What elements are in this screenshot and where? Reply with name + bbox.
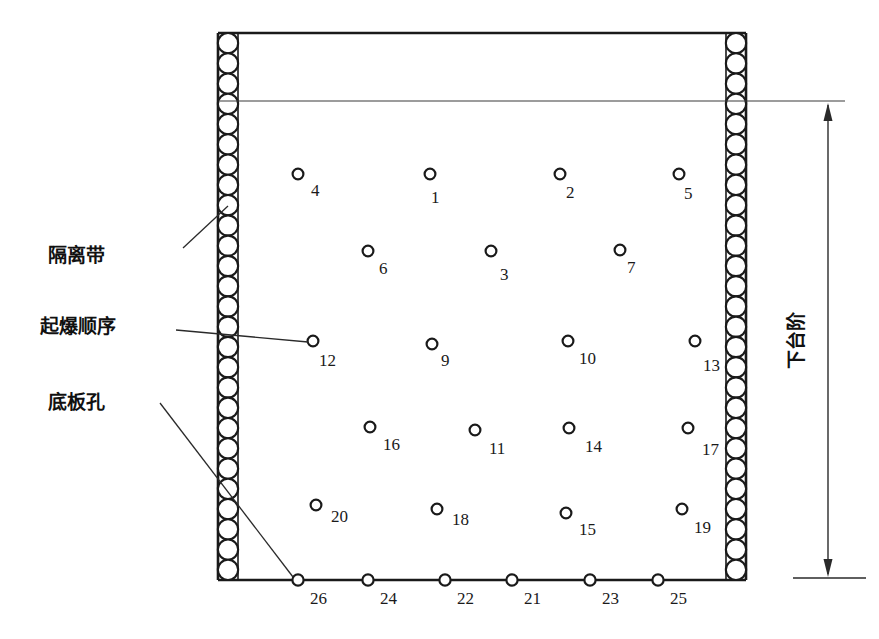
blast-hole-circle[interactable] <box>470 425 481 436</box>
isolation-band-circle <box>726 74 746 94</box>
bench-hole[interactable]: 9 <box>427 339 450 370</box>
bench-hole[interactable]: 18 <box>432 504 469 529</box>
isolation-band-circle <box>218 296 238 316</box>
blast-hole-number: 13 <box>703 356 720 375</box>
bench-hole[interactable]: 12 <box>308 336 336 370</box>
blast-hole-circle[interactable] <box>677 504 688 515</box>
blast-hole-circle[interactable] <box>311 500 322 511</box>
diagram-canvas: 412563712910131611141720181519 262422212… <box>0 0 879 639</box>
blast-hole-number: 20 <box>331 507 348 526</box>
bench-hole[interactable]: 13 <box>690 336 720 375</box>
isolation-band-circle <box>218 357 238 377</box>
isolation-band-circle <box>218 560 238 580</box>
isolation-band-circle <box>218 458 238 478</box>
blast-hole-number: 5 <box>684 184 693 203</box>
blast-hole-circle[interactable] <box>555 169 566 180</box>
floor-hole-circle[interactable] <box>652 574 663 585</box>
isolation-band-left <box>218 33 238 580</box>
blast-hole-number: 9 <box>441 351 450 370</box>
bench-hole[interactable]: 5 <box>674 169 693 203</box>
bench-hole[interactable]: 11 <box>470 425 506 458</box>
isolation-band-circle <box>726 438 746 458</box>
isolation-band-circle <box>726 560 746 580</box>
blast-hole-circle[interactable] <box>674 169 685 180</box>
bench-hole[interactable]: 6 <box>363 246 388 278</box>
isolation-band-circle <box>726 499 746 519</box>
blast-hole-circle[interactable] <box>683 423 694 434</box>
isolation-band-circle <box>726 175 746 195</box>
blast-hole-circle[interactable] <box>363 246 374 257</box>
isolation-band-circle <box>218 337 238 357</box>
isolation-band-circle <box>218 114 238 134</box>
blast-hole-number: 3 <box>500 265 509 284</box>
isolation-band-circle <box>726 418 746 438</box>
bench-hole[interactable]: 10 <box>563 336 596 368</box>
floor-hole-circle[interactable] <box>292 574 303 585</box>
isolation-band-circle <box>726 94 746 114</box>
blast-hole-number: 2 <box>566 183 575 202</box>
bench-hole[interactable]: 3 <box>486 246 509 284</box>
bench-hole[interactable]: 16 <box>365 422 400 454</box>
bench-hole[interactable]: 7 <box>615 245 636 277</box>
isolation-band-circle <box>218 155 238 175</box>
isolation-band-circle <box>218 94 238 114</box>
blast-hole-number: 19 <box>694 518 711 537</box>
isolation-band-circle <box>218 276 238 296</box>
isolation-band-circle <box>218 74 238 94</box>
blast-hole-number: 12 <box>319 351 336 370</box>
floor-hole-number: 21 <box>524 589 541 608</box>
annotation-floor-hole: 底板孔 <box>48 391 293 577</box>
blast-hole-circle[interactable] <box>425 169 436 180</box>
blast-hole-number: 4 <box>311 181 320 200</box>
isolation-band-circle <box>218 438 238 458</box>
bench-hole[interactable]: 15 <box>561 508 596 539</box>
isolation-band-circle <box>726 114 746 134</box>
bench-hole[interactable]: 2 <box>555 169 575 202</box>
floor-hole-number: 26 <box>310 589 327 608</box>
bench-hole[interactable]: 17 <box>683 423 720 459</box>
blast-hole-number: 16 <box>383 435 400 454</box>
isolation-band-circle <box>726 377 746 397</box>
floor-hole-number: 25 <box>670 589 687 608</box>
dimension-arrow-down <box>824 559 833 577</box>
isolation-band-circle <box>218 519 238 539</box>
bench-hole[interactable]: 20 <box>311 500 348 526</box>
isolation-band-circle <box>726 155 746 175</box>
blast-hole-circle[interactable] <box>427 339 438 350</box>
blast-hole-number: 18 <box>452 510 469 529</box>
floor-hole-circle[interactable] <box>506 574 517 585</box>
blast-hole-number: 11 <box>489 439 505 458</box>
blast-hole-circle[interactable] <box>564 423 575 434</box>
floor-hole-circle[interactable] <box>584 574 595 585</box>
bench-hole[interactable]: 14 <box>564 423 603 456</box>
blast-hole-circle[interactable] <box>486 246 497 257</box>
floor-hole-circle[interactable] <box>362 574 373 585</box>
blast-hole-circle[interactable] <box>365 422 376 433</box>
bench-hole[interactable]: 4 <box>293 169 320 200</box>
floor-hole-number: 23 <box>602 589 619 608</box>
floor-hole-circle[interactable] <box>439 574 450 585</box>
blast-hole-number: 17 <box>702 440 720 459</box>
isolation-band-circle <box>726 53 746 73</box>
isolation-band-circle <box>726 519 746 539</box>
blast-hole-circle[interactable] <box>308 336 319 347</box>
isolation-band-circle <box>218 539 238 559</box>
bench-hole[interactable]: 1 <box>425 169 440 207</box>
blast-hole-number: 10 <box>579 349 596 368</box>
isolation-band-circle <box>726 357 746 377</box>
annotation-isolation-band: 隔离带 <box>48 206 228 266</box>
isolation-band-circle <box>726 398 746 418</box>
blast-hole-circle[interactable] <box>690 336 701 347</box>
blast-hole-circle[interactable] <box>432 504 443 515</box>
bench-hole[interactable]: 19 <box>677 504 711 537</box>
annotation-label: 底板孔 <box>48 391 105 413</box>
blast-hole-number: 1 <box>431 188 440 207</box>
isolation-band-circle <box>726 539 746 559</box>
blast-hole-circle[interactable] <box>561 508 572 519</box>
floor-hole-number: 22 <box>457 589 474 608</box>
blast-hole-circle[interactable] <box>293 169 304 180</box>
blast-hole-circle[interactable] <box>615 245 626 256</box>
blast-hole-circle[interactable] <box>563 336 574 347</box>
floor-hole-number: 24 <box>380 589 398 608</box>
bench-hole-group: 412563712910131611141720181519 <box>293 169 720 539</box>
